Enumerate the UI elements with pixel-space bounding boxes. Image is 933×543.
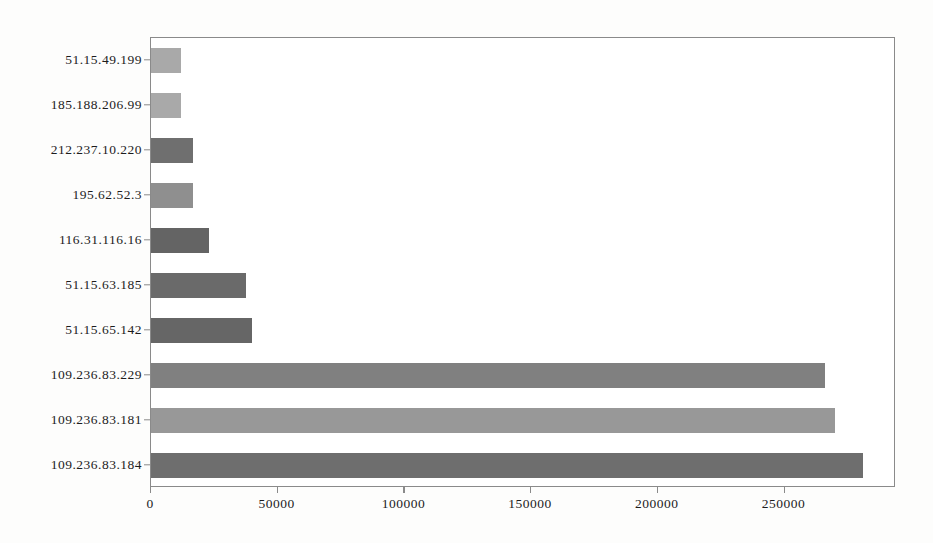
y-axis-tick-label: 51.15.63.185 [4, 277, 142, 293]
y-axis-tick-mark [144, 149, 150, 150]
y-axis-tick-label: 212.237.10.220 [4, 142, 142, 158]
x-axis-tick-mark [657, 487, 658, 493]
x-axis-tick-layer: 050000100000150000200000250000 [0, 487, 933, 543]
y-axis-tick-mark [144, 464, 150, 465]
y-axis-tick-mark [144, 329, 150, 330]
x-axis-tick-label: 50000 [259, 496, 295, 512]
y-axis-tick-mark [144, 239, 150, 240]
x-axis-tick-label: 200000 [635, 496, 679, 512]
x-axis-tick-mark [403, 487, 404, 493]
x-axis-tick-mark [150, 487, 151, 493]
x-axis-tick-mark [277, 487, 278, 493]
y-axis-tick-mark [144, 194, 150, 195]
y-axis-tick-label: 109.236.83.229 [4, 367, 142, 383]
y-axis-tick-mark [144, 284, 150, 285]
y-axis-tick-mark [144, 104, 150, 105]
y-axis-tick-mark [144, 419, 150, 420]
y-axis-tick-label: 51.15.49.199 [4, 52, 142, 68]
y-axis-tick-mark [144, 374, 150, 375]
y-axis-tick-label: 195.62.52.3 [4, 187, 142, 203]
bar-chart-figure: 51.15.49.199185.188.206.99212.237.10.220… [0, 0, 933, 543]
y-axis-tick-label: 116.31.116.16 [4, 232, 142, 248]
x-axis-tick-mark [784, 487, 785, 493]
y-axis-tick-label: 109.236.83.184 [4, 457, 142, 473]
x-axis-tick-label: 100000 [382, 496, 426, 512]
y-axis-tick-mark [144, 59, 150, 60]
y-axis-tick-label: 51.15.65.142 [4, 322, 142, 338]
y-axis-tick-label: 109.236.83.181 [4, 412, 142, 428]
x-axis-tick-label: 250000 [762, 496, 806, 512]
y-axis-tick-layer: 51.15.49.199185.188.206.99212.237.10.220… [0, 37, 933, 487]
x-axis-tick-mark [530, 487, 531, 493]
y-axis-tick-label: 185.188.206.99 [4, 97, 142, 113]
x-axis-tick-label: 0 [146, 496, 153, 512]
x-axis-tick-label: 150000 [508, 496, 552, 512]
